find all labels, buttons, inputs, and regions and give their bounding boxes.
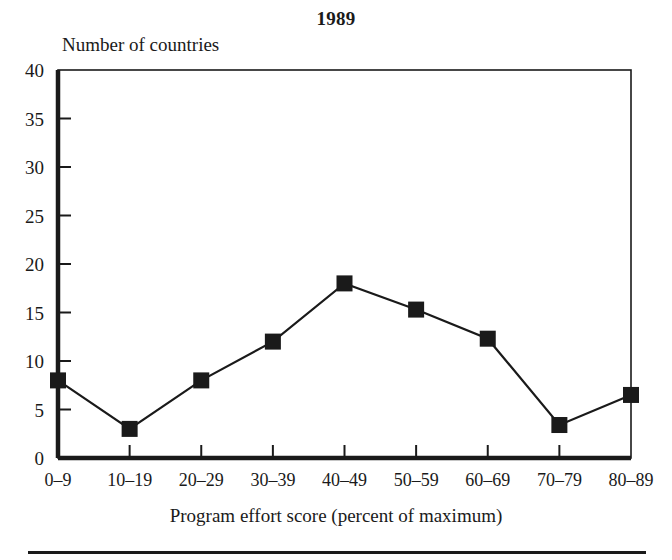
x-axis-tick-label: 80–89 [609, 470, 654, 490]
data-point-marker [193, 372, 209, 388]
y-axis-tick-label: 40 [25, 60, 44, 81]
x-axis-tick-label: 40–49 [322, 470, 367, 490]
data-point-marker [265, 334, 281, 350]
plot-frame [58, 70, 631, 458]
y-axis-tick-label: 30 [25, 157, 44, 178]
y-axis-tick-label: 15 [25, 303, 44, 324]
data-point-marker [50, 372, 66, 388]
x-axis-tick-label: 60–69 [465, 470, 510, 490]
chart-figure: 1989 Number of countries 051015202530354… [0, 0, 672, 560]
x-axis-tick-label: 50–59 [394, 470, 439, 490]
x-axis-tick-label: 0–9 [45, 470, 72, 490]
data-point-marker [551, 417, 567, 433]
y-axis-tick-label: 5 [35, 400, 45, 421]
data-point-marker [337, 275, 353, 291]
series-line [58, 283, 631, 429]
x-axis-tick-label: 70–79 [537, 470, 582, 490]
line-chart-plot: 05101520253035400–910–1920–2930–3940–495… [0, 0, 672, 560]
data-point-marker [480, 331, 496, 347]
y-axis-tick-label: 10 [25, 351, 44, 372]
x-axis-tick-label: 10–19 [107, 470, 152, 490]
data-point-marker [623, 387, 639, 403]
y-axis-tick-label: 35 [25, 109, 44, 130]
x-axis-caption: Program effort score (percent of maximum… [0, 505, 672, 527]
data-point-marker [122, 421, 138, 437]
y-axis-tick-label: 25 [25, 206, 44, 227]
x-axis-tick-label: 30–39 [250, 470, 295, 490]
footer-rule [28, 551, 646, 554]
data-point-marker [408, 302, 424, 318]
y-axis-tick-label: 0 [35, 448, 45, 469]
x-axis-tick-label: 20–29 [179, 470, 224, 490]
y-axis-tick-label: 20 [25, 254, 44, 275]
